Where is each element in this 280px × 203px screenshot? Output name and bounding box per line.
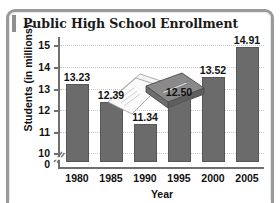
bar-value-label: 13.52 [193, 64, 233, 76]
y-tick-mark [54, 153, 59, 155]
bar-value-label: 13.23 [57, 71, 97, 83]
bar [202, 77, 225, 162]
y-tick-mark [54, 67, 59, 69]
bar [236, 47, 259, 162]
bar-value-label: 11.34 [125, 111, 165, 123]
chart-area: Students (in millions) Year [12, 34, 270, 184]
y-tick-mark [54, 132, 59, 134]
y-axis-title: Students (in millions) [22, 18, 34, 138]
y-tick-label: 13 [30, 83, 50, 95]
x-axis-title: Year [60, 188, 264, 200]
bar-value-label: 12.39 [91, 89, 131, 101]
x-axis-line [58, 167, 264, 169]
title-accent-bar [12, 15, 16, 32]
y-tick-label: 15 [30, 39, 50, 51]
y-tick-label-zero: 0 [30, 158, 50, 170]
bar [66, 84, 89, 162]
bar [100, 102, 123, 162]
bar-value-label: 12.50 [159, 86, 199, 98]
gridline [60, 153, 264, 154]
y-tick-label: 12 [30, 104, 50, 116]
gridline [60, 67, 264, 68]
y-tick-label: 14 [30, 61, 50, 73]
y-tick-mark [54, 89, 59, 91]
y-tick-mark [54, 45, 59, 47]
x-tick-label: 2005 [227, 172, 267, 184]
bar-value-label: 14.91 [227, 34, 267, 46]
chart-figure: Public High School Enrollment Students (… [0, 0, 280, 203]
bar [134, 124, 157, 162]
gridline [60, 132, 264, 133]
bar [168, 99, 191, 162]
chart-title-row: Public High School Enrollment [12, 13, 264, 33]
y-tick-label: 11 [30, 126, 50, 138]
y-tick-mark [54, 110, 59, 112]
page-title: Public High School Enrollment [23, 16, 238, 31]
